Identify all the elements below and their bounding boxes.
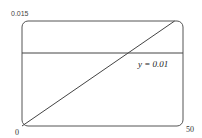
y-max-label: 0.015	[11, 10, 29, 17]
x-min-label: 0	[15, 128, 19, 137]
increasing-line	[22, 21, 175, 126]
annotation-y-0.01: y = 0.01	[137, 59, 168, 69]
plot-frame	[22, 21, 183, 126]
x-max-label: 50	[186, 125, 194, 134]
chart: 0.015 0 50 y = 0.01	[0, 0, 202, 138]
